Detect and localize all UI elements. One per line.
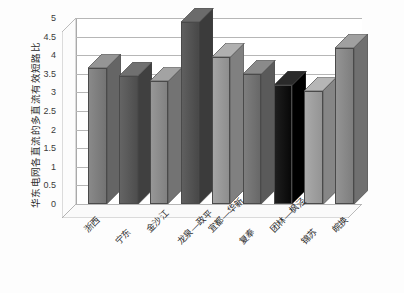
bar[interactable] bbox=[119, 76, 138, 204]
bar-top-face bbox=[335, 34, 369, 49]
bar-top-face bbox=[274, 71, 308, 86]
bar-top-face bbox=[181, 8, 215, 23]
bar-top-face bbox=[88, 54, 122, 69]
bar-series bbox=[62, 18, 362, 218]
bar-top-face bbox=[212, 43, 246, 58]
bar-top-face bbox=[150, 67, 184, 82]
y-axis-tick-label: 5 bbox=[51, 13, 56, 23]
bar-front-face bbox=[119, 76, 138, 204]
y-axis-tick-label: 3 bbox=[51, 87, 56, 97]
bar-front-face bbox=[150, 81, 169, 204]
bar[interactable] bbox=[274, 85, 293, 204]
y-axis-tick-label: 0 bbox=[51, 199, 56, 209]
bar-front-face bbox=[335, 48, 354, 204]
bar-chart: 华东电网各直流的多直流有效短路比 54.543.532.521.510.50 浙… bbox=[0, 0, 404, 293]
bar-front-face bbox=[212, 57, 231, 204]
x-axis-category-label: 宁东 bbox=[112, 225, 134, 247]
bar-front-face bbox=[88, 68, 107, 204]
x-axis-category-labels: 浙西宁东金沙江龙泉—政平宜都—华新复奉团林—枫泾锦苏皖换 bbox=[0, 224, 404, 293]
y-axis-tick-labels: 54.543.532.521.510.50 bbox=[30, 12, 56, 204]
y-axis-tick-label: 4.5 bbox=[43, 32, 56, 42]
bar-side-face bbox=[354, 34, 368, 204]
bar[interactable] bbox=[88, 68, 107, 204]
x-axis-category-label: 复奉 bbox=[236, 225, 258, 247]
plot-area bbox=[62, 18, 362, 218]
bar[interactable] bbox=[243, 74, 262, 204]
bar[interactable] bbox=[150, 81, 169, 204]
y-axis-tick-label: 2 bbox=[51, 125, 56, 135]
bar-front-face bbox=[181, 22, 200, 204]
bar[interactable] bbox=[212, 57, 231, 204]
y-axis-tick-label: 0.5 bbox=[43, 180, 56, 190]
x-axis-category-label: 锦苏 bbox=[298, 225, 320, 247]
y-axis-tick-label: 2.5 bbox=[43, 106, 56, 116]
bar-front-face bbox=[304, 91, 323, 204]
y-axis-tick-label: 1 bbox=[51, 162, 56, 172]
bar[interactable] bbox=[335, 48, 354, 204]
bar-top-face bbox=[119, 62, 153, 77]
y-axis-tick-label: 1.5 bbox=[43, 143, 56, 153]
bar-front-face bbox=[243, 74, 262, 204]
bar[interactable] bbox=[181, 22, 200, 204]
bar-top-face bbox=[243, 60, 277, 75]
y-axis-tick-label: 3.5 bbox=[43, 69, 56, 79]
y-axis-tick-label: 4 bbox=[51, 50, 56, 60]
bar-top-face bbox=[304, 77, 338, 92]
bar[interactable] bbox=[304, 91, 323, 204]
bar-front-face bbox=[274, 85, 293, 204]
